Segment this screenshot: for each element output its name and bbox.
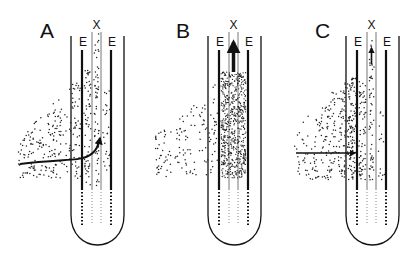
endodermis-label-left: E	[216, 35, 224, 49]
endodermis-label-right: E	[108, 35, 116, 49]
panel-letter: B	[176, 19, 190, 42]
endodermis-label-left: E	[354, 35, 362, 49]
xylem-label: X	[229, 18, 237, 32]
xylem-label: X	[92, 18, 100, 32]
panel-letter: A	[40, 19, 54, 42]
endodermis-label-right: E	[245, 35, 253, 49]
endodermis-label-right: E	[383, 35, 391, 49]
xylem-label: X	[367, 18, 375, 32]
panel-c: CXEE	[294, 18, 399, 245]
panel-a: AXEE	[18, 18, 124, 245]
endodermis-label-left: E	[79, 35, 87, 49]
panel-b: BXEE	[155, 18, 261, 245]
root-transport-diagram: AXEE BXEE CXEE	[0, 0, 417, 261]
panel-letter: C	[315, 19, 330, 42]
